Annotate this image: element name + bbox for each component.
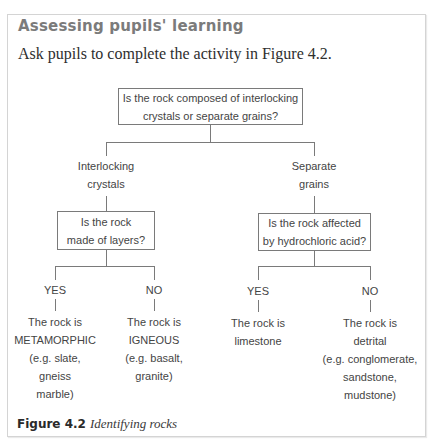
- layers-yes-label: YES: [25, 281, 85, 299]
- outcome-line: detrital: [315, 332, 425, 350]
- left-branch-drop: [106, 142, 107, 156]
- layers-no-drop: [154, 266, 155, 280]
- figure-title: Identifying rocks: [90, 416, 177, 431]
- intro-text: Ask pupils to complete the activity in F…: [18, 45, 332, 63]
- limestone-connector: [258, 300, 259, 312]
- right-label-connector: [314, 196, 315, 213]
- right-branch-label: Separate grains: [264, 157, 364, 193]
- layers-yes-drop: [55, 266, 56, 280]
- outcome-line: (e.g. conglomerate,: [315, 350, 425, 368]
- outcome-line: (e.g. slate,: [5, 349, 105, 367]
- figure-caption: Figure 4.2Identifying rocks: [17, 414, 177, 432]
- acid-no-drop: [370, 266, 371, 280]
- outcome-line: gneiss: [5, 367, 105, 385]
- igneous-connector: [154, 299, 155, 311]
- outcome-line: The rock is: [315, 314, 425, 332]
- outcome-line: (e.g. basalt,: [104, 349, 204, 367]
- outcome-igneous: The rock is IGNEOUS (e.g. basalt, granit…: [104, 313, 204, 385]
- acid-yes-drop: [258, 266, 259, 280]
- outcome-line: The rock is: [208, 314, 308, 332]
- acid-connector: [314, 251, 315, 266]
- outcome-line: granite): [104, 367, 204, 385]
- outcome-line: mudstone): [315, 386, 425, 404]
- left-branch-label-line-2: crystals: [56, 175, 156, 193]
- left-branch-label-line-1: Interlocking: [56, 157, 156, 175]
- acid-no-label: NO: [340, 282, 400, 300]
- acid-question-line-2: by hydrochloric acid?: [259, 232, 370, 250]
- root-question-line-1: Is the rock composed of interlocking: [119, 89, 302, 107]
- left-label-connector: [106, 196, 107, 211]
- acid-branch-line: [258, 266, 371, 267]
- acid-question-box: Is the rock affected by hydrochloric aci…: [258, 213, 371, 251]
- right-branch-label-line-2: grains: [264, 175, 364, 193]
- outcome-line: sandstone,: [315, 368, 425, 386]
- layers-connector: [106, 250, 107, 266]
- layers-question-line-2: made of layers?: [58, 231, 154, 249]
- section-heading: Assessing pupils' learning: [18, 17, 244, 35]
- right-branch-drop: [314, 142, 315, 156]
- outcome-line: limestone: [208, 332, 308, 350]
- figure-number: Figure 4.2: [17, 417, 86, 431]
- outcome-line: The rock is: [5, 313, 105, 331]
- detrital-connector: [370, 300, 371, 312]
- outcome-line: IGNEOUS: [104, 331, 204, 349]
- outcome-line: marble): [5, 385, 105, 403]
- outcome-line: METAMORPHIC: [5, 331, 105, 349]
- left-branch-label: Interlocking crystals: [56, 157, 156, 193]
- right-branch-label-line-1: Separate: [264, 157, 364, 175]
- outcome-detrital: The rock is detrital (e.g. conglomerate,…: [315, 314, 425, 404]
- outcome-limestone: The rock is limestone: [208, 314, 308, 350]
- layers-question-line-1: Is the rock: [58, 213, 154, 231]
- layers-no-label: NO: [124, 281, 184, 299]
- layers-question-box: Is the rock made of layers?: [57, 211, 155, 250]
- root-connector: [210, 125, 211, 142]
- acid-question-line-1: Is the rock affected: [259, 214, 370, 232]
- outcome-metamorphic: The rock is METAMORPHIC (e.g. slate, gne…: [5, 313, 105, 403]
- acid-yes-label: YES: [228, 282, 288, 300]
- layers-branch-line: [55, 266, 155, 267]
- root-branch-line: [106, 142, 315, 143]
- root-question-line-2: crystals or separate grains?: [119, 107, 302, 125]
- root-question-box: Is the rock composed of interlocking cry…: [118, 88, 303, 125]
- outcome-line: The rock is: [104, 313, 204, 331]
- metamorphic-connector: [55, 299, 56, 311]
